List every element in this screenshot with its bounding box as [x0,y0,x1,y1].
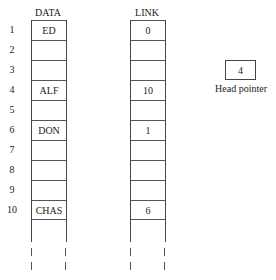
data-cell: ALF [32,80,66,100]
link-cell: 10 [131,80,165,100]
row-index: 3 [0,60,24,80]
row-index: 8 [0,160,24,180]
link-cell: 6 [131,200,165,220]
link-cell [131,180,165,200]
data-cell: DON [32,120,66,140]
data-continuation-dash [65,262,66,270]
head-pointer-box: 4 [225,60,256,80]
data-continuation-dash [31,248,32,256]
link-column-header: LINK [127,7,167,18]
link-cell: 0 [131,20,165,40]
head-pointer-label: Head pointer [210,83,272,94]
link-cell [131,100,165,120]
link-cell: 1 [131,120,165,140]
row-index: 4 [0,80,24,100]
data-cell: CHAS [32,200,66,220]
link-cell [131,160,165,180]
link-cell [131,140,165,160]
row-index: 1 [0,20,24,40]
data-cell [32,100,66,120]
row-index: 9 [0,180,24,200]
link-continuation-dash [130,262,131,270]
link-column-continuation [130,220,166,242]
data-column-header: DATA [28,7,68,18]
link-continuation-dash [164,262,165,270]
data-column: ED ALF DON CHAS [31,20,67,220]
data-cell [32,180,66,200]
data-cell [32,60,66,80]
row-index: 2 [0,40,24,60]
data-cell [32,160,66,180]
row-index: 5 [0,100,24,120]
link-cell [131,40,165,60]
link-continuation-dash [130,248,131,256]
row-index: 6 [0,120,24,140]
link-column: 0 10 1 6 [130,20,166,220]
data-continuation-dash [65,248,66,256]
row-index: 10 [0,200,24,220]
data-cell [32,140,66,160]
data-column-continuation [31,220,67,242]
link-cell [131,60,165,80]
data-cell [32,40,66,60]
row-index: 7 [0,140,24,160]
link-continuation-dash [164,248,165,256]
data-cell: ED [32,20,66,40]
data-continuation-dash [31,262,32,270]
